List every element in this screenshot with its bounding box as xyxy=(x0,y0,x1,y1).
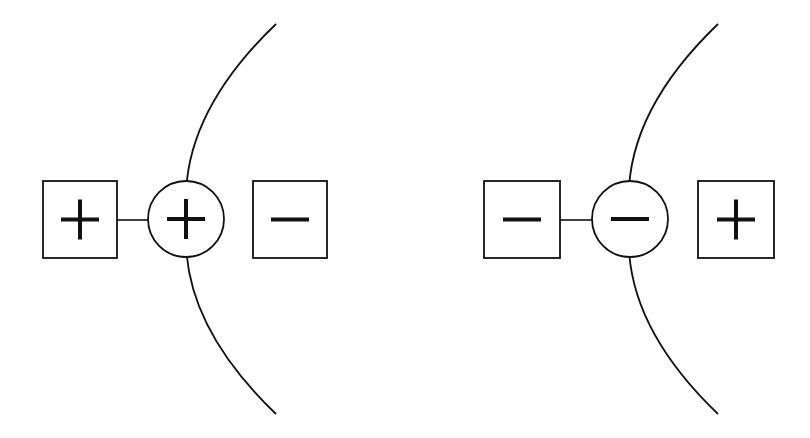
panel-left xyxy=(43,24,327,414)
charge-interaction-diagram xyxy=(0,0,810,438)
panel-right xyxy=(484,24,774,414)
diagram-canvas xyxy=(0,0,810,438)
